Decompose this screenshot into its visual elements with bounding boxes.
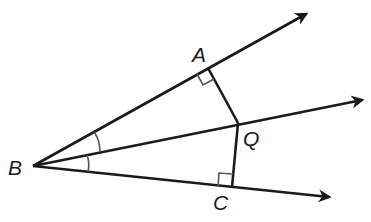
angle-arc-abq (94, 132, 100, 152)
ray-bc (33, 166, 329, 197)
ray-bq (33, 100, 362, 166)
label-q: Q (243, 127, 259, 150)
label-a: A (190, 43, 206, 66)
geometry-diagram: B A Q C (0, 0, 371, 222)
label-b: B (8, 156, 22, 179)
label-c: C (213, 191, 229, 214)
ray-ba (33, 14, 306, 166)
segment-qc (232, 123, 238, 187)
angle-arc-qbc (87, 155, 89, 172)
right-angle-mark-c (218, 173, 233, 186)
segment-qa (208, 68, 238, 123)
